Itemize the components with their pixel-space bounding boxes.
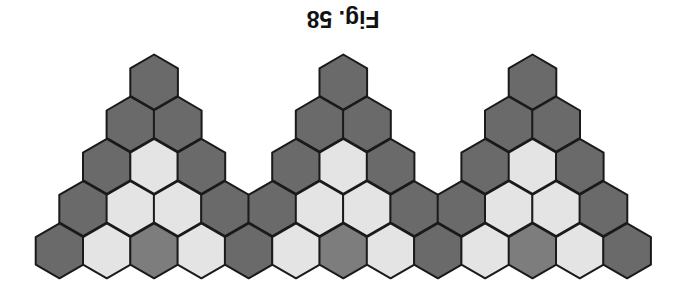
hexagon-triangles-diagram xyxy=(0,0,690,306)
